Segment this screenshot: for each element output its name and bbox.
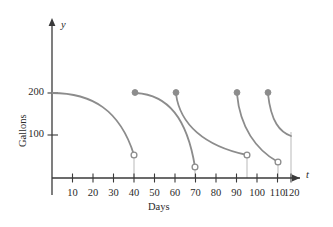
curve-cycle-2 — [132, 90, 198, 170]
filled-circle-marker-2 — [132, 90, 138, 96]
y-axis-arrow — [49, 18, 56, 26]
open-circle-marker-3 — [244, 152, 250, 158]
gallons-vs-days-chart: 200 100 10 20 30 40 50 60 70 80 90 100 1… — [0, 0, 333, 227]
y-tick-label-200: 200 — [10, 87, 44, 98]
x-tick-label-120: 120 — [279, 188, 304, 199]
open-circle-marker-4 — [275, 159, 281, 165]
y-axis-ticks — [48, 93, 59, 135]
x-axis-variable-label: t — [306, 170, 309, 181]
curve-cycle-5 — [265, 90, 291, 136]
x-axis-arrow — [292, 175, 300, 182]
filled-circle-marker-5 — [265, 90, 271, 96]
open-circle-marker-2 — [192, 164, 198, 170]
y-axis-title: Gallons — [18, 114, 29, 147]
open-circle-marker-1 — [131, 152, 137, 158]
x-axis — [52, 174, 300, 183]
filled-circle-marker-4 — [234, 90, 240, 96]
y-axis-variable-label: y — [61, 20, 66, 31]
filled-circle-marker-3 — [173, 90, 179, 96]
curve-cycle-1 — [52, 93, 137, 158]
x-axis-title: Days — [148, 202, 170, 213]
y-axis — [48, 18, 59, 195]
